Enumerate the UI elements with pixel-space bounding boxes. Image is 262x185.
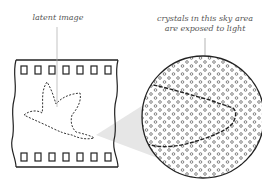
film-strip <box>12 60 118 167</box>
bird-latent-image <box>24 82 94 139</box>
sprocket-holes-top <box>21 66 111 74</box>
diagram-canvas <box>0 0 262 185</box>
magnifier-circle <box>142 56 262 178</box>
sprocket-holes-bottom <box>21 153 111 161</box>
